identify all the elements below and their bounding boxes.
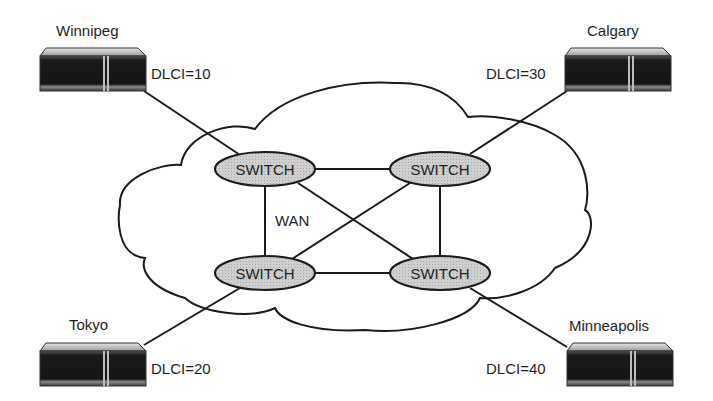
router-icon-minneapolis [567,343,673,386]
router-icon-tokyo [40,343,146,386]
site-name-calgary: Calgary [587,23,639,38]
dlci-label-winnipeg: DLCI=10 [151,66,211,81]
link-tokyo [144,288,240,345]
network-diagram [0,0,713,401]
link-calgary [470,91,567,154]
switch-label-bottom-right: SWITCH [390,266,490,281]
wan-label: WAN [275,213,309,228]
link-tr-bl [292,183,410,259]
switch-label-top-right: SWITCH [390,162,490,177]
dlci-label-calgary: DLCI=30 [486,66,546,81]
site-name-winnipeg: Winnipeg [56,23,119,38]
link-tl-br [298,183,413,259]
dlci-label-minneapolis: DLCI=40 [486,361,546,376]
switch-label-top-left: SWITCH [215,162,315,177]
site-name-tokyo: Tokyo [69,317,108,332]
dlci-label-tokyo: DLCI=20 [151,361,211,376]
router-icon-winnipeg [40,48,146,91]
switch-label-bottom-left: SWITCH [215,266,315,281]
router-icon-calgary [565,48,671,91]
wan-cloud [119,83,591,331]
link-minneapolis [470,288,567,347]
site-name-minneapolis: Minneapolis [569,318,649,333]
